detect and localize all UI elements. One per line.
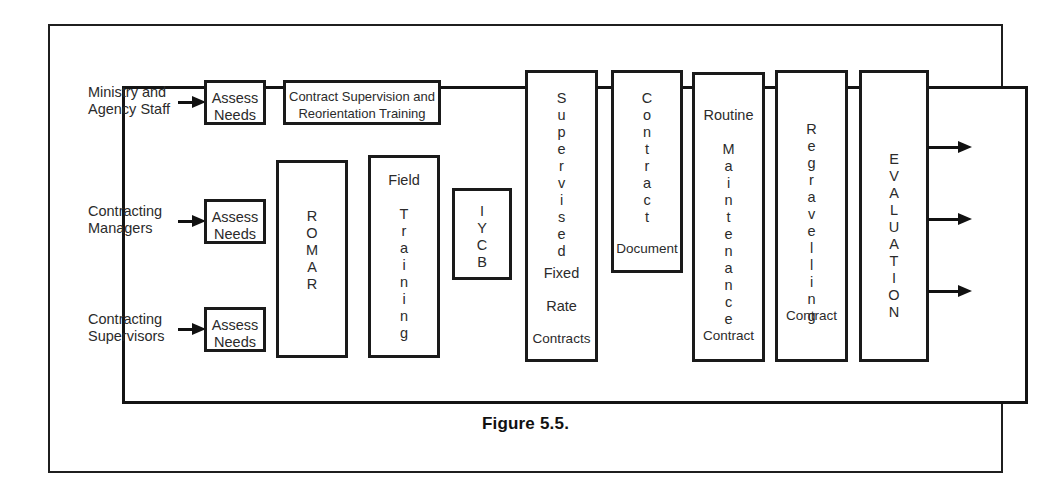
supervised-vertical-label: Supervised: [528, 90, 595, 260]
vertical-letter: n: [724, 277, 732, 294]
vertical-letter: r: [559, 158, 564, 175]
vertical-letter: V: [889, 168, 899, 185]
vertical-letter: g: [807, 155, 815, 172]
vertical-letter: r: [645, 158, 650, 175]
vertical-letter: C: [642, 90, 652, 107]
vertical-letter: M: [722, 141, 734, 158]
assess-needs-line-2: Needs: [207, 226, 263, 242]
vertical-letter: R: [806, 121, 816, 138]
routine-maintenance-contract-box[interactable]: Routine Maintenance Contract: [692, 72, 765, 362]
field-training-vertical-label: Training: [371, 206, 437, 342]
vertical-letter: n: [724, 192, 732, 209]
vertical-letter: e: [724, 311, 732, 328]
vertical-letter: a: [724, 260, 732, 277]
vertical-letter: r: [402, 223, 407, 240]
figure-canvas: Figure 5.5. Ministry and Agency Staff As…: [0, 0, 1053, 503]
vertical-letter: e: [557, 226, 565, 243]
field-training-top-label: Field: [371, 172, 437, 188]
vertical-letter: n: [643, 124, 651, 141]
contract-supervision-training-box[interactable]: Contract Supervision and Reorientation T…: [283, 80, 441, 125]
vertical-letter: S: [557, 90, 567, 107]
vertical-letter: C: [477, 237, 487, 254]
vertical-letter: e: [724, 226, 732, 243]
vertical-letter: n: [807, 291, 815, 308]
vertical-letter: i: [560, 192, 563, 209]
vertical-letter: u: [557, 107, 565, 124]
vertical-letter: a: [400, 240, 408, 257]
vertical-letter: A: [307, 259, 317, 276]
vertical-letter: l: [810, 240, 813, 257]
vertical-letter: e: [557, 141, 565, 158]
contract-document-bottom-line: Document: [614, 241, 680, 256]
vertical-letter: A: [889, 185, 899, 202]
vertical-letter: U: [889, 219, 899, 236]
vertical-letter: a: [724, 158, 732, 175]
vertical-letter: R: [307, 276, 317, 293]
vertical-letter: i: [810, 274, 813, 291]
vertical-letter: s: [558, 209, 565, 226]
regravelling-bottom-line: Contract: [778, 308, 845, 323]
vertical-letter: n: [400, 274, 408, 291]
contract-vertical-label: Contract: [614, 90, 680, 226]
vertical-letter: v: [808, 206, 815, 223]
vertical-letter: O: [306, 225, 317, 242]
vertical-letter: T: [890, 253, 899, 270]
vertical-letter: L: [890, 202, 898, 219]
figure-caption: Figure 5.5.: [50, 414, 1001, 434]
vertical-letter: p: [557, 124, 565, 141]
iycb-vertical-label: IYCB: [455, 203, 509, 271]
vertical-letter: A: [889, 236, 899, 253]
assess-needs-box-2[interactable]: Assess Needs: [204, 199, 266, 244]
assess-needs-box-3[interactable]: Assess Needs: [204, 307, 266, 352]
vertical-letter: d: [557, 243, 565, 260]
vertical-letter: a: [807, 189, 815, 206]
vertical-letter: T: [400, 206, 409, 223]
vertical-letter: i: [402, 257, 405, 274]
vertical-letter: I: [892, 270, 896, 287]
vertical-letter: e: [807, 223, 815, 240]
vertical-letter: g: [400, 325, 408, 342]
romar-box[interactable]: ROMAR: [276, 160, 348, 358]
maintenance-vertical-label: Maintenance: [695, 141, 762, 328]
vertical-letter: n: [724, 243, 732, 260]
vertical-letter: Y: [477, 220, 487, 237]
contract-document-box[interactable]: Contract Document: [611, 70, 683, 273]
supervised-bottom-line-3: Contracts: [528, 331, 595, 346]
evaluation-box[interactable]: EVALUATION: [859, 70, 929, 362]
iycb-box[interactable]: IYCB: [452, 188, 512, 280]
vertical-letter: N: [889, 304, 899, 321]
routine-top-label: Routine: [695, 107, 762, 123]
regravelling-vertical-label: Regravelling: [778, 121, 845, 325]
vertical-letter: a: [643, 175, 651, 192]
training-box-line-1: Contract Supervision and: [286, 89, 438, 104]
vertical-letter: E: [889, 151, 899, 168]
supervised-bottom-line-1: Fixed: [528, 265, 595, 281]
assess-needs-line-1: Assess: [207, 209, 263, 225]
training-box-line-2: Reorientation Training: [286, 106, 438, 121]
vertical-letter: t: [645, 141, 649, 158]
vertical-letter: B: [477, 254, 487, 271]
vertical-letter: t: [645, 209, 649, 226]
vertical-letter: i: [402, 291, 405, 308]
romar-vertical-label: ROMAR: [279, 208, 345, 293]
assess-needs-line-1: Assess: [207, 90, 263, 106]
vertical-letter: M: [306, 242, 318, 259]
routine-bottom-line: Contract: [695, 328, 762, 343]
vertical-letter: r: [809, 172, 814, 189]
vertical-letter: i: [727, 175, 730, 192]
vertical-letter: o: [643, 107, 651, 124]
vertical-letter: t: [726, 209, 730, 226]
assess-needs-box-1[interactable]: Assess Needs: [204, 80, 266, 125]
vertical-letter: c: [725, 294, 732, 311]
supervised-bottom-line-2: Rate: [528, 298, 595, 314]
vertical-letter: n: [400, 308, 408, 325]
supervised-fixed-rate-contracts-box[interactable]: Supervised Fixed Rate Contracts: [525, 70, 598, 362]
field-training-box[interactable]: Field Training: [368, 155, 440, 358]
vertical-letter: v: [558, 175, 565, 192]
regravelling-contract-box[interactable]: Regravelling Contract: [775, 70, 848, 362]
vertical-letter: O: [888, 287, 899, 304]
assess-needs-line-2: Needs: [207, 107, 263, 123]
vertical-letter: l: [810, 257, 813, 274]
vertical-letter: R: [307, 208, 317, 225]
assess-needs-line-2: Needs: [207, 334, 263, 350]
